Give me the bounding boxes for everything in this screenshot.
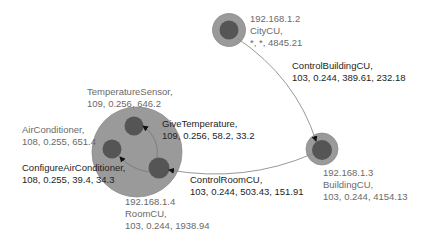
configure-ac-label: ConfigureAirConditioner, 108, 0.255, 39.… — [22, 162, 126, 186]
configure-ac-stats: 108, 0.255, 39.4, 34.3 — [22, 174, 126, 186]
building-node[interactable] — [306, 133, 338, 165]
city-stats: *, *, 4845.21 — [250, 37, 302, 49]
building-ip: 192.168.1.3 — [323, 167, 408, 179]
air-conditioner-node[interactable] — [103, 140, 122, 159]
building-label: 192.168.1.3 BuildingCU, 103, 0.244, 4154… — [323, 167, 408, 203]
room-cu-inner-node[interactable] — [149, 158, 170, 179]
control-room-name: ControlRoomCU, — [190, 174, 304, 186]
room-name: RoomCU, — [125, 208, 210, 220]
city-name: CityCU, — [250, 25, 302, 37]
building-name: BuildingCU, — [323, 179, 408, 191]
control-building-label: ControlBuildingCU, 103, 0.244, 389.61, 2… — [292, 60, 406, 84]
temperature-sensor-stats: 109, 0.256, 646.2 — [87, 98, 173, 110]
give-temperature-stats: 109, 0.256, 58.2, 33.2 — [162, 130, 254, 142]
control-building-stats: 103, 0.244, 389.61, 232.18 — [292, 72, 406, 84]
configure-ac-name: ConfigureAirConditioner, — [22, 162, 126, 174]
city-ip: 192.168.1.2 — [250, 13, 302, 25]
city-node[interactable] — [213, 14, 246, 47]
air-conditioner-label: AirConditioner, 108, 0.255, 651.4 — [22, 124, 96, 148]
temperature-sensor-node[interactable] — [125, 117, 144, 136]
city-label: 192.168.1.2 CityCU, *, *, 4845.21 — [250, 13, 302, 49]
room-stats: 103, 0.244, 1938.94 — [125, 220, 210, 232]
building-stats: 103, 0.244, 4154.13 — [323, 191, 408, 203]
give-temperature-label: GiveTemperature, 109, 0.256, 58.2, 33.2 — [162, 118, 254, 142]
control-room-label: ControlRoomCU, 103, 0.244, 503.43, 151.9… — [190, 174, 304, 198]
give-temperature-name: GiveTemperature, — [162, 118, 254, 130]
temperature-sensor-label: TemperatureSensor, 109, 0.256, 646.2 — [87, 86, 173, 110]
room-ip: 192.168.1.4 — [125, 196, 210, 208]
air-conditioner-stats: 108, 0.255, 651.4 — [22, 136, 96, 148]
room-label: 192.168.1.4 RoomCU, 103, 0.244, 1938.94 — [125, 196, 210, 232]
control-building-name: ControlBuildingCU, — [292, 60, 406, 72]
air-conditioner-name: AirConditioner, — [22, 124, 96, 136]
edge-control-room[interactable] — [169, 154, 312, 174]
temperature-sensor-name: TemperatureSensor, — [87, 86, 173, 98]
